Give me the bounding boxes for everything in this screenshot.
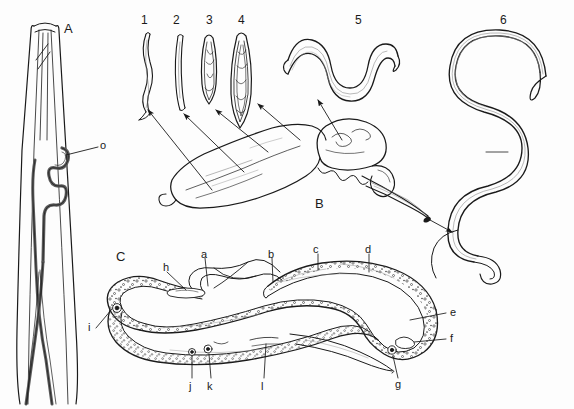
stage-number-3: 3 (206, 14, 213, 26)
panel-b-host-organ (159, 119, 431, 223)
stage-2-larva (175, 35, 185, 111)
panel-a-part-label-o: o (100, 140, 106, 151)
panel-c-part-label-d: d (365, 244, 371, 255)
stage-number-4: 4 (238, 14, 245, 26)
stage-5-adult-worm (284, 39, 400, 101)
panel-a-anterior-section (17, 23, 98, 404)
panel-c-part-label-l: l (261, 381, 263, 392)
stage-6-adult-worm (431, 30, 546, 284)
stage-1-larva (139, 33, 153, 121)
stage-3-larva (201, 35, 216, 104)
panel-c-part-label-k: k (207, 381, 213, 392)
panel-c-part-label-i: i (88, 322, 90, 333)
panel-label-c: C (116, 250, 125, 263)
stage-number-6: 6 (500, 14, 507, 26)
panel-c-part-label-a: a (201, 249, 207, 260)
stage-number-1: 1 (141, 14, 148, 26)
panel-c-part-label-c: c (313, 244, 319, 255)
figure-artwork (0, 0, 574, 409)
figure-plate: A B C 1 2 3 4 5 6 o a b c d e f g h i j … (0, 0, 574, 409)
panel-b-arrows (148, 100, 452, 232)
panel-c-part-label-h: h (163, 262, 169, 273)
panel-label-a: A (64, 22, 73, 35)
stage-number-5: 5 (355, 14, 362, 26)
panel-c-part-label-j: j (189, 381, 191, 392)
stage-4-larva (231, 33, 252, 128)
panel-c-part-label-f: f (450, 333, 453, 344)
panel-c-part-label-b: b (268, 249, 274, 260)
panel-c-part-label-e: e (450, 307, 456, 318)
panel-label-b: B (315, 197, 324, 210)
panel-c-part-label-g: g (395, 379, 401, 390)
stage-number-2: 2 (173, 14, 180, 26)
